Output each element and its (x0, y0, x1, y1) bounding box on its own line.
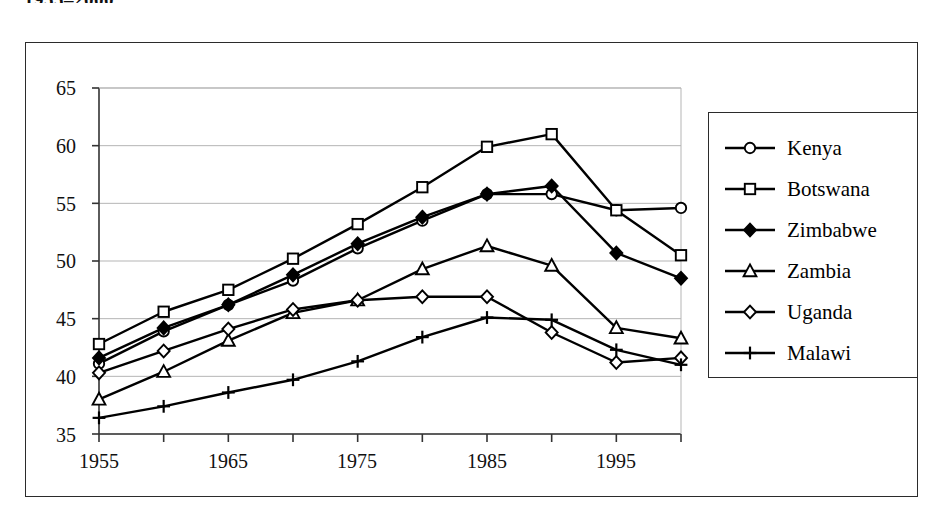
legend-label: Zimbabwe (777, 219, 877, 241)
legend-label: Kenya (777, 137, 842, 159)
y-tick-label-50: 50 (30, 251, 76, 271)
legend-label: Zambia (777, 260, 851, 282)
legend-item-uganda: Uganda (709, 291, 917, 332)
x-tick-label-1995: 1995 (571, 451, 661, 471)
legend-item-botswana: Botswana (709, 168, 917, 209)
y-tick-label-65: 65 (30, 78, 76, 98)
y-tick-label-35: 35 (30, 425, 76, 445)
open-diamond-icon (723, 301, 777, 323)
open-circle-icon (723, 137, 777, 159)
filled-diamond-icon (723, 219, 777, 241)
legend-item-zimbabwe: Zimbabwe (709, 209, 917, 250)
legend-label: Uganda (777, 301, 852, 323)
plus-marker-icon (723, 342, 777, 364)
chart-legend: Kenya Botswana Zimbabwe Zambia Uganda Ma… (708, 112, 918, 378)
open-square-icon (723, 178, 777, 200)
legend-item-zambia: Zambia (709, 250, 917, 291)
x-tick-label-1985: 1985 (442, 451, 532, 471)
y-tick-label-60: 60 (30, 136, 76, 156)
y-tick-label-40: 40 (30, 367, 76, 387)
y-tick-label-55: 55 (30, 194, 76, 214)
x-tick-label-1955: 1955 (54, 451, 144, 471)
legend-label: Botswana (777, 178, 870, 200)
y-tick-label-45: 45 (30, 309, 76, 329)
legend-item-malawi: Malawi (709, 332, 917, 373)
page-title: 1955–2000 (24, 0, 114, 3)
legend-label: Malawi (777, 342, 851, 364)
legend-item-kenya: Kenya (709, 127, 917, 168)
x-tick-label-1975: 1975 (312, 451, 402, 471)
open-triangle-icon (723, 260, 777, 282)
x-tick-label-1965: 1965 (183, 451, 273, 471)
